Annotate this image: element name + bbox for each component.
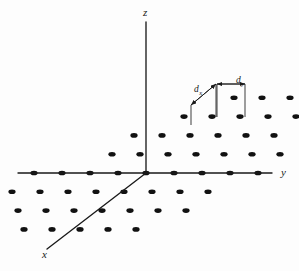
lattice-dot: [248, 152, 255, 157]
lattice-dot: [182, 208, 189, 213]
lattice-dot: [264, 114, 271, 119]
lattice-dot: [14, 208, 21, 213]
axes-group: [18, 22, 272, 249]
lattice-dot: [158, 133, 165, 138]
axis-label-z: z: [142, 6, 148, 18]
lattice-dot: [42, 208, 49, 213]
lattice-dot: [258, 96, 265, 101]
lattice-dot: [148, 190, 155, 195]
lattice-dot: [192, 152, 199, 157]
lattice-dot: [242, 133, 249, 138]
figure-canvas: dxdy xyz: [0, 0, 299, 271]
lattice-dot: [236, 114, 243, 119]
axis-label-y: y: [280, 166, 286, 178]
lattice-dot: [220, 152, 227, 157]
lattice-dot: [48, 227, 55, 232]
dy-label: dy: [236, 75, 244, 87]
lattice-dot: [36, 190, 43, 195]
lattice-dot: [20, 227, 27, 232]
lattice-dot: [276, 152, 283, 157]
lattice-dot: [70, 208, 77, 213]
lattice-dot: [136, 152, 143, 157]
axis-label-x: x: [41, 248, 47, 260]
lattice-dot: [176, 190, 183, 195]
lattice-dot: [292, 114, 299, 119]
lattice-dot: [8, 190, 15, 195]
lattice-dot: [108, 152, 115, 157]
lattice-dot: [186, 133, 193, 138]
lattice-dot: [126, 208, 133, 213]
lattice-dot: [230, 96, 237, 101]
lattice-dot: [204, 190, 211, 195]
dx-label-subscript: x: [198, 89, 202, 96]
lattice-dot: [286, 96, 293, 101]
dx-label: dx: [194, 84, 202, 96]
lattice-dot: [92, 190, 99, 195]
lattice-dot: [154, 208, 161, 213]
lattice-dot-group: [0, 96, 299, 232]
lattice-dot: [132, 227, 139, 232]
lattice-dot: [214, 133, 221, 138]
lattice-dot: [270, 133, 277, 138]
lattice-dot: [164, 152, 171, 157]
dy-label-subscript: y: [240, 80, 244, 87]
lattice-dot: [64, 190, 71, 195]
lattice-dot: [130, 133, 137, 138]
lattice-dot: [104, 227, 111, 232]
lattice-dot: [208, 114, 215, 119]
axis-label-group: xyz: [41, 6, 286, 260]
lattice-dot: [76, 227, 83, 232]
lattice-figure: dxdy xyz: [0, 0, 299, 271]
lattice-dot: [180, 114, 187, 119]
